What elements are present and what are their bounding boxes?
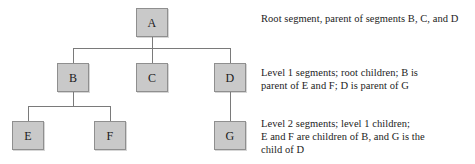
node-e[interactable]: E (12, 121, 44, 150)
node-d[interactable]: D (214, 63, 246, 92)
node-e-label: E (24, 129, 32, 141)
node-c-label: C (148, 71, 156, 83)
node-b[interactable]: B (57, 63, 89, 92)
node-g-label: G (226, 129, 235, 141)
node-f-label: F (107, 129, 114, 141)
node-g[interactable]: G (214, 121, 246, 150)
node-c[interactable]: C (136, 63, 168, 92)
node-b-label: B (69, 71, 77, 83)
node-a[interactable]: A (136, 8, 168, 37)
segment-tree-diagram: A B C D E F G Root segment, parent of se… (0, 0, 475, 164)
node-a-label: A (148, 16, 157, 28)
node-d-label: D (226, 71, 235, 83)
annotation-level-2: Level 2 segments; level 1 children; E an… (261, 117, 425, 156)
node-f[interactable]: F (94, 121, 126, 150)
annotation-level-0: Root segment, parent of segments B, C, a… (261, 12, 458, 25)
annotation-level-1: Level 1 segments; root children; B is pa… (261, 66, 418, 92)
